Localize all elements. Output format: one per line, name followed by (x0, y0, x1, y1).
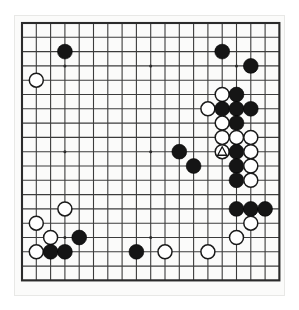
black-stone[interactable] (229, 116, 244, 131)
black-stone[interactable] (229, 202, 244, 217)
white-stone[interactable] (244, 145, 258, 159)
star-point (149, 150, 152, 153)
white-stone[interactable] (244, 216, 258, 230)
white-stone[interactable] (201, 245, 215, 259)
black-stone[interactable] (229, 159, 244, 174)
black-stone[interactable] (243, 202, 258, 217)
go-board-canvas[interactable] (15, 16, 286, 297)
go-board-figure: Go board position diagram (0, 0, 299, 310)
star-point (149, 64, 152, 67)
white-stone[interactable] (230, 231, 244, 245)
black-stone[interactable] (43, 244, 58, 259)
star-point (63, 64, 66, 67)
white-stone[interactable] (244, 173, 258, 187)
black-stone[interactable] (58, 44, 73, 59)
go-board[interactable] (14, 15, 285, 296)
white-stone[interactable] (244, 130, 258, 144)
white-stone[interactable] (201, 102, 215, 116)
star-point (149, 236, 152, 239)
black-stone[interactable] (229, 173, 244, 188)
white-stone[interactable] (29, 216, 43, 230)
white-stone[interactable] (215, 88, 229, 102)
figure-title: Go board position diagram (0, 21, 1, 22)
white-stone[interactable] (244, 159, 258, 173)
black-stone[interactable] (215, 44, 230, 59)
white-stone[interactable] (44, 231, 58, 245)
black-stone[interactable] (186, 159, 201, 174)
black-stone[interactable] (215, 101, 230, 116)
black-stone[interactable] (229, 144, 244, 159)
white-stone[interactable] (230, 130, 244, 144)
white-stone[interactable] (215, 116, 229, 130)
black-stone[interactable] (243, 101, 258, 116)
white-stone[interactable] (29, 73, 43, 87)
black-stone[interactable] (229, 101, 244, 116)
black-stone[interactable] (72, 230, 87, 245)
star-point (235, 64, 238, 67)
white-stone[interactable] (215, 130, 229, 144)
black-stone[interactable] (58, 244, 73, 259)
black-stone[interactable] (258, 202, 273, 217)
white-stone[interactable] (58, 202, 72, 216)
star-point (63, 236, 66, 239)
black-stone[interactable] (129, 244, 144, 259)
black-stone[interactable] (243, 59, 258, 74)
star-point (63, 150, 66, 153)
white-stone[interactable] (29, 245, 43, 259)
black-stone[interactable] (229, 87, 244, 102)
white-stone[interactable] (158, 245, 172, 259)
black-stone[interactable] (172, 144, 187, 159)
